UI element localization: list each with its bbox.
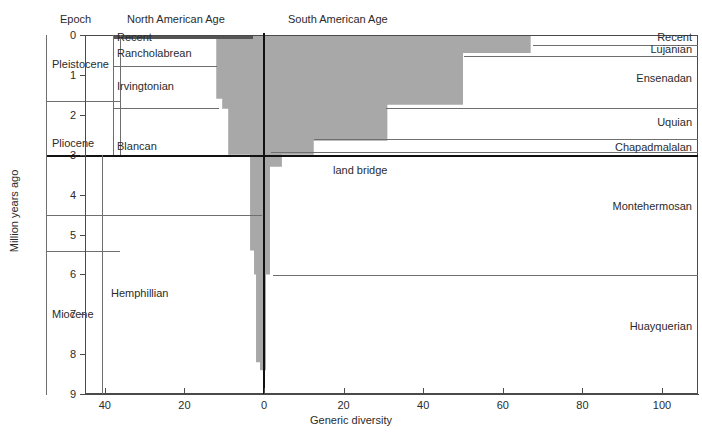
x-axis-tick xyxy=(662,388,663,394)
y-axis-tick xyxy=(80,394,85,395)
sa-age-label-chapadmalalan: Chapadmalalan xyxy=(538,141,692,153)
y-axis-tick-label: 9 xyxy=(54,388,76,400)
y-axis-tick xyxy=(80,75,85,76)
x-axis-tick-label: 20 xyxy=(324,399,364,411)
column-header-epoch: Epoch xyxy=(60,13,91,25)
y-axis-tick xyxy=(80,115,85,116)
x-axis-tick-label: 80 xyxy=(562,399,602,411)
y-axis-tick-label: 7 xyxy=(54,308,76,320)
rule-na-rancholabrean-base xyxy=(113,66,217,67)
sa-age-label-recent: Recent xyxy=(538,31,692,43)
na-age-label-irvingtonian: Irvingtonian xyxy=(117,80,174,92)
y-axis-tick-label: 2 xyxy=(54,109,76,121)
na-age-label-rancholabrean: Rancholabrean xyxy=(117,47,192,59)
epoch-label-pliocene: Pliocene xyxy=(52,137,94,149)
rule-na-irvingtonian-base xyxy=(113,108,219,109)
x-axis-tick-label: 0 xyxy=(244,399,284,411)
rule-na-blancan-base xyxy=(46,155,698,157)
y-axis-tick-label: 1 xyxy=(54,69,76,81)
x-axis-title: Generic diversity xyxy=(0,414,702,426)
y-axis-tick-label: 6 xyxy=(54,268,76,280)
na-age-label-blancan: Blancan xyxy=(117,140,157,152)
y-axis-tick-label: 0 xyxy=(54,29,76,41)
x-axis-tick xyxy=(423,388,424,394)
x-axis-tick xyxy=(582,388,583,394)
x-axis-tick-label: 20 xyxy=(164,399,204,411)
vrule-na-left xyxy=(102,155,103,395)
sa-age-label-huayquerian: Huayquerian xyxy=(538,320,692,332)
y-axis-tick xyxy=(80,354,85,355)
rule-epoch-miocene-top xyxy=(46,251,120,252)
sa-age-label-lujanian: Lujanian xyxy=(538,43,692,55)
y-axis-tick-label: 3 xyxy=(54,149,76,161)
na-age-label-hemphillian: Hemphillian xyxy=(111,287,168,299)
x-axis-tick xyxy=(344,388,345,394)
rule-na-hemphillian-upper xyxy=(102,215,262,216)
y-axis-title: Million years ago xyxy=(8,131,20,291)
sa-age-label-montehermosan: Montehermosan xyxy=(538,200,692,212)
rule-sa-montehermosan-base xyxy=(273,275,698,276)
y-axis-tick xyxy=(80,35,85,36)
sa-age-label-ensenadan: Ensenadan xyxy=(538,72,692,84)
rule-sa-lujanian-base xyxy=(464,56,698,57)
y-axis-tick xyxy=(80,155,85,156)
x-axis-line xyxy=(85,394,699,395)
y-axis-tick-label: 8 xyxy=(54,348,76,360)
x-axis-tick-label: 60 xyxy=(483,399,523,411)
y-axis-tick-label: 5 xyxy=(54,229,76,241)
x-axis-tick xyxy=(105,388,106,394)
y-axis-tick xyxy=(80,314,85,315)
rule-epoch-pleistocene-base xyxy=(46,101,120,102)
column-header-north-american-age: North American Age xyxy=(127,13,225,25)
x-axis-tick xyxy=(264,388,265,394)
rule-sa-ensenadan-base xyxy=(386,108,698,109)
x-axis-tick-label: 40 xyxy=(403,399,443,411)
y-axis-tick xyxy=(80,274,85,275)
y-axis-tick-label: 4 xyxy=(54,189,76,201)
zero-reference-line xyxy=(263,33,265,395)
x-axis-tick xyxy=(503,388,504,394)
sa-age-label-uquian: Uquian xyxy=(538,116,692,128)
y-axis-line xyxy=(85,35,86,395)
land-bridge-annotation: land bridge xyxy=(333,164,387,176)
column-header-south-american-age: South American Age xyxy=(288,13,388,25)
x-axis-tick xyxy=(184,388,185,394)
rule-sa-uquian-base xyxy=(314,139,698,140)
vrule-epoch-left xyxy=(46,35,47,395)
x-axis-tick-label: 100 xyxy=(642,399,682,411)
y-axis-tick xyxy=(80,195,85,196)
vrule-na-right xyxy=(113,35,114,155)
x-axis-tick-label: 40 xyxy=(85,399,125,411)
y-axis-tick xyxy=(80,235,85,236)
diversity-chart-figure: Epoch North American Age South American … xyxy=(0,0,702,437)
na-age-label-recent: Recent xyxy=(117,31,152,43)
